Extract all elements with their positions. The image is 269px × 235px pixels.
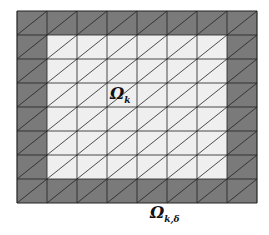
subscript: k,δ xyxy=(164,214,179,224)
triangulated-mesh xyxy=(0,0,269,235)
omega-symbol: Ω xyxy=(110,84,124,103)
omega-symbol: Ω xyxy=(150,203,164,222)
subscript: k xyxy=(124,95,130,105)
interior-domain-label: Ωk xyxy=(110,86,131,105)
boundary-layer-label: Ωk,δ xyxy=(150,205,180,224)
